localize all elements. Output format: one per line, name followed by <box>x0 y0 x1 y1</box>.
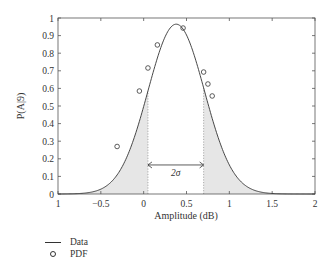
shaded-regions <box>58 88 315 194</box>
y-tick-label: 0.4 <box>42 119 54 129</box>
chart: 1−0.500.511.5200.10.20.30.40.50.60.70.80… <box>0 0 329 230</box>
legend-circle-swatch <box>42 251 64 257</box>
data-curve <box>58 24 315 194</box>
y-tick-label: 0 <box>49 190 54 200</box>
legend-item-pdf: PDF <box>42 248 88 260</box>
legend-line-swatch <box>42 242 64 243</box>
x-tick-label: −0.5 <box>92 199 109 209</box>
plot-frame <box>58 18 315 194</box>
y-tick-label: 0.1 <box>42 172 54 182</box>
pdf-point <box>201 70 206 75</box>
pdf-point <box>210 94 215 99</box>
pdf-markers <box>115 26 215 149</box>
pdf-point <box>155 43 160 48</box>
shaded-region-0 <box>58 91 148 194</box>
sigma-label: 2σ <box>171 168 181 178</box>
legend-label-pdf: PDF <box>70 248 87 260</box>
annotations: 2σ <box>148 162 204 178</box>
x-axis-label: Amplitude (dB) <box>154 210 218 222</box>
x-tick-label: 0.5 <box>181 199 193 209</box>
legend-label-data: Data <box>70 236 88 248</box>
x-tick-label: 1 <box>56 199 61 209</box>
y-tick-label: 0.2 <box>42 154 54 164</box>
y-tick-label: 0.6 <box>42 84 54 94</box>
x-tick-label: 1.5 <box>266 199 278 209</box>
axes: 1−0.500.511.5200.10.20.30.40.50.60.70.80… <box>42 14 318 210</box>
data-curve-layer <box>58 24 315 194</box>
legend: Data PDF <box>42 236 88 260</box>
y-axis-label: P(A|9) <box>15 93 27 119</box>
y-tick-label: 0.9 <box>42 31 54 41</box>
y-tick-label: 0.3 <box>42 137 54 147</box>
x-tick-label: 1 <box>227 199 232 209</box>
legend-item-data: Data <box>42 236 88 248</box>
pdf-point <box>206 82 211 87</box>
pdf-point <box>115 144 120 149</box>
y-tick-label: 0.7 <box>42 66 54 76</box>
pdf-point <box>146 66 151 71</box>
shaded-region-1 <box>204 88 315 194</box>
x-tick-label: 0 <box>141 199 146 209</box>
x-tick-label: 2 <box>313 199 318 209</box>
y-tick-label: 0.5 <box>42 102 54 112</box>
y-tick-label: 1 <box>49 14 54 24</box>
pdf-point <box>137 89 142 94</box>
y-tick-label: 0.8 <box>42 49 54 59</box>
